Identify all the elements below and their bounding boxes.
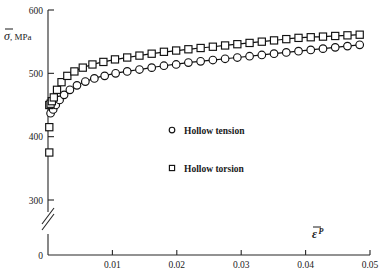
data-point-circle — [209, 56, 217, 64]
data-point-circle — [112, 70, 120, 78]
data-point-circle — [282, 49, 290, 57]
data-point-circle — [185, 59, 193, 67]
data-point-circle — [295, 47, 303, 55]
legend-marker-square — [169, 165, 174, 170]
data-point-square — [319, 33, 326, 40]
x-tick-label: 0.03 — [233, 260, 250, 270]
series-0-markers — [47, 41, 364, 117]
data-point-square — [71, 68, 78, 75]
data-point-circle — [101, 72, 109, 80]
y-tick-label: 600 — [29, 6, 44, 16]
data-point-square — [136, 52, 143, 59]
legend-marker-circle — [169, 127, 175, 133]
legend-label-1: Hollow torsion — [184, 164, 245, 174]
data-point-circle — [123, 68, 131, 76]
data-point-circle — [344, 42, 352, 50]
data-point-circle — [148, 64, 156, 72]
data-point-square — [148, 50, 155, 57]
data-point-circle — [136, 66, 144, 74]
data-point-circle — [258, 51, 266, 59]
data-point-square — [197, 44, 204, 51]
data-point-square — [344, 32, 351, 39]
data-point-circle — [82, 78, 90, 86]
data-point-square — [283, 36, 290, 43]
x-tick-label: 0.02 — [168, 260, 185, 270]
data-point-square — [111, 56, 118, 63]
data-point-square — [89, 61, 96, 68]
data-point-circle — [331, 44, 339, 52]
y-tick-label: 400 — [29, 132, 44, 142]
data-point-circle — [160, 62, 168, 70]
data-point-square — [246, 39, 253, 46]
data-point-square — [307, 34, 314, 41]
data-point-square — [222, 42, 229, 49]
data-point-square — [332, 32, 339, 39]
chart-canvas: 30040050060000.010.020.030.040.05σ, MPaε… — [0, 0, 386, 272]
data-point-circle — [307, 46, 315, 54]
data-point-circle — [91, 75, 99, 83]
legend-label-0: Hollow tension — [184, 126, 245, 136]
y-axis-title: σ, MPa — [4, 29, 31, 43]
data-point-square — [46, 149, 53, 156]
data-point-square — [173, 47, 180, 54]
data-point-square — [234, 41, 241, 48]
data-point-square — [258, 38, 265, 45]
data-point-square — [64, 72, 71, 79]
data-point-square — [53, 86, 60, 93]
data-point-circle — [356, 41, 364, 49]
data-point-square — [160, 48, 167, 55]
stress-strain-figure: 30040050060000.010.020.030.040.05σ, MPaε… — [0, 0, 386, 272]
data-point-circle — [270, 50, 278, 58]
data-point-circle — [172, 61, 180, 69]
data-point-square — [50, 94, 57, 101]
data-point-square — [295, 34, 302, 41]
data-point-square — [356, 31, 363, 38]
data-point-circle — [319, 45, 327, 53]
data-point-square — [270, 37, 277, 44]
x-tick-label: 0.01 — [104, 260, 121, 270]
x-tick-label: 0.05 — [362, 260, 379, 270]
data-point-square — [79, 64, 86, 71]
data-point-circle — [197, 58, 205, 66]
data-point-square — [124, 54, 131, 61]
data-point-circle — [73, 82, 81, 90]
data-point-square — [46, 124, 53, 131]
y-origin-label: 0 — [38, 251, 43, 261]
x-axis-title: εP — [312, 227, 323, 241]
data-point-square — [185, 46, 192, 53]
data-point-square — [209, 43, 216, 50]
data-point-circle — [221, 55, 229, 63]
data-point-circle — [246, 52, 254, 60]
y-tick-label: 500 — [29, 69, 44, 79]
data-point-circle — [66, 86, 74, 94]
data-point-circle — [234, 54, 242, 62]
y-tick-label: 300 — [29, 196, 44, 206]
x-tick-label: 0.04 — [297, 260, 314, 270]
data-point-square — [100, 58, 107, 65]
